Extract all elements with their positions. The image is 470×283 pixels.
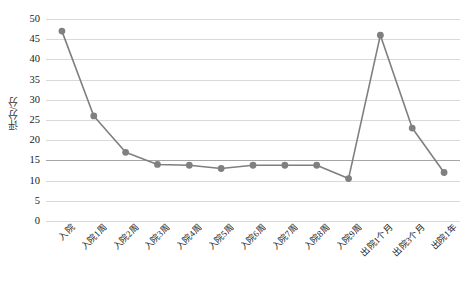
data-point-marker: 入院6周: 13.8 (250, 162, 257, 169)
data-point-marker: 入院8周: 13.8 (313, 162, 320, 169)
series-line (62, 31, 444, 178)
plot-area: 入院: 47入院1周: 26入院2周: 17入院3周: 14入院4周: 13.8… (46, 19, 460, 221)
line-chart: 评分/分 05101520253035404550 入院: 47入院1周: 26… (0, 0, 470, 283)
data-series: 入院: 47入院1周: 26入院2周: 17入院3周: 14入院4周: 13.8… (46, 19, 460, 221)
data-point-marker: 入院5周: 13 (218, 165, 225, 172)
x-axis-tick-labels: 入院入院1周入院2周入院3周入院4周入院5周入院6周入院7周入院8周入院9周出院… (46, 221, 460, 283)
data-point-marker: 入院7周: 13.8 (281, 162, 288, 169)
data-point-marker: 入院4周: 13.8 (186, 162, 193, 169)
y-axis-tick-label: 15 (12, 155, 44, 166)
y-axis-tick-label: 45 (12, 34, 44, 45)
data-point-marker: 入院9周: 10.5 (345, 175, 352, 182)
data-point-marker: 入院3周: 14 (154, 161, 161, 168)
y-axis-tick-label: 30 (12, 95, 44, 106)
y-axis-tick-label: 5 (12, 196, 44, 207)
y-axis-tick-label: 0 (12, 216, 44, 227)
data-point-marker: 出院1年: 12 (441, 169, 448, 176)
data-point-marker: 入院: 47 (59, 28, 66, 35)
y-axis-tick-label: 50 (12, 14, 44, 25)
y-axis-tick-label: 10 (12, 175, 44, 186)
y-axis-tick-label: 35 (12, 74, 44, 85)
y-axis-tick-label: 20 (12, 135, 44, 146)
data-point-marker: 入院1周: 26 (90, 113, 97, 120)
y-axis-tick-labels: 05101520253035404550 (12, 0, 44, 283)
y-axis-tick-label: 25 (12, 115, 44, 126)
data-point-marker: 出院1个月: 46 (377, 32, 384, 39)
data-point-marker: 入院2周: 17 (122, 149, 129, 156)
data-point-marker: 出院3个月: 23 (409, 125, 416, 132)
y-axis-tick-label: 40 (12, 54, 44, 65)
